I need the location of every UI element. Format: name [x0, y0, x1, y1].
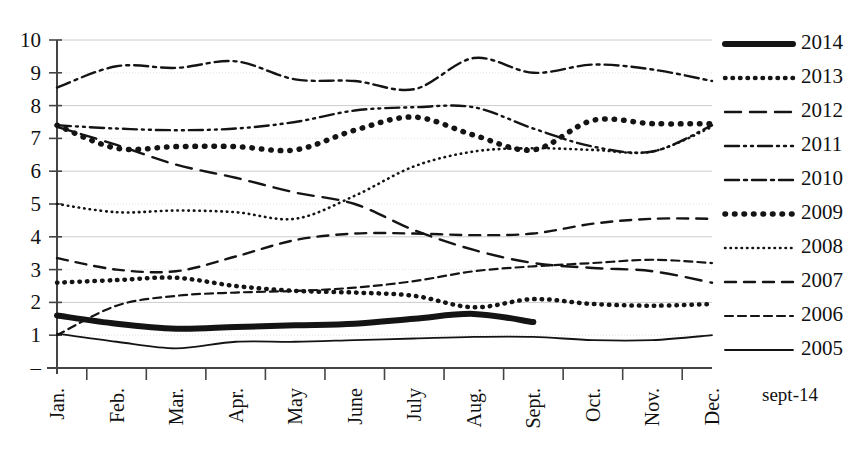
y-tick-label: 10 — [20, 28, 41, 52]
series-line-2010 — [57, 58, 712, 90]
y-axis-tick-labels: 10987654321– — [20, 28, 42, 380]
legend-label-2010[interactable]: 2010 — [801, 166, 843, 190]
series-line-2005 — [57, 334, 712, 349]
y-tick-label: – — [30, 356, 42, 380]
x-tick-label: June — [344, 388, 366, 425]
x-tick-label: Feb. — [106, 388, 128, 423]
x-tick-label: Apr. — [225, 388, 248, 423]
x-tick-label: Oct. — [582, 388, 604, 422]
legend-label-2011[interactable]: 2011 — [801, 132, 842, 156]
x-tick-label: Sept. — [522, 388, 545, 429]
x-tick-label: Jan. — [46, 388, 68, 420]
y-tick-label: 4 — [31, 225, 42, 249]
y-tick-label: 8 — [31, 94, 42, 118]
legend-label-2008[interactable]: 2008 — [801, 234, 843, 258]
legend-label-2013[interactable]: 2013 — [801, 64, 843, 88]
y-tick-label: 6 — [31, 159, 42, 183]
y-tick-label: 9 — [31, 61, 42, 85]
x-tick-label: Nov. — [641, 388, 663, 426]
chart-canvas: 10987654321– Jan.Feb.Mar.Apr.MayJuneJuly… — [0, 0, 858, 450]
x-tick-label: July — [403, 388, 426, 421]
y-tick-label: 1 — [31, 323, 42, 347]
x-tick-label: Aug. — [463, 388, 486, 427]
legend-label-2009[interactable]: 2009 — [801, 200, 843, 224]
x-axis-tick-labels: Jan.Feb.Mar.Apr.MayJuneJulyAug.Sept.Oct.… — [46, 388, 723, 429]
gridlines — [57, 40, 712, 335]
series-line-2009 — [57, 117, 712, 151]
x-tick-label: Dec. — [701, 388, 723, 425]
series-line-2007 — [57, 218, 712, 272]
chart-footnote: sept-14 — [762, 384, 818, 405]
legend-label-2007[interactable]: 2007 — [801, 268, 843, 292]
y-tick-label: 2 — [31, 290, 42, 314]
legend-label-2006[interactable]: 2006 — [801, 302, 843, 326]
legend-label-2014[interactable]: 2014 — [801, 30, 844, 54]
legend-label-2012[interactable]: 2012 — [801, 98, 843, 122]
x-tick-label: May — [284, 388, 307, 425]
line-chart-figure: 10987654321– Jan.Feb.Mar.Apr.MayJuneJuly… — [0, 0, 858, 450]
y-tick-label: 7 — [31, 126, 42, 150]
y-tick-label: 5 — [31, 192, 42, 216]
series-line-2011 — [57, 106, 712, 153]
chart-legend: 2014201320122011201020092008200720062005 — [725, 30, 844, 360]
data-series-lines — [57, 58, 712, 349]
series-line-2014 — [57, 314, 533, 329]
y-tick-label: 3 — [31, 258, 42, 282]
legend-label-2005[interactable]: 2005 — [801, 336, 843, 360]
series-line-2008 — [57, 127, 712, 219]
x-tick-label: Mar. — [165, 388, 187, 425]
footnote-text: sept-14 — [762, 384, 818, 405]
